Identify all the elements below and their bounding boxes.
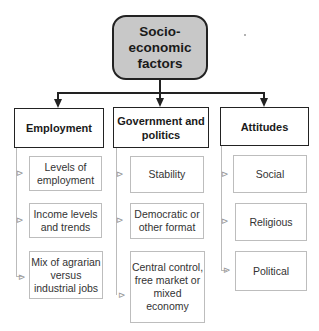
connector-arrow-icon: ⊳ (223, 265, 231, 275)
item-central-control-free-market-or-mixed-economy: Central control, free market or mixed ec… (130, 251, 205, 323)
root-label-line-2: economic (128, 40, 191, 56)
item-social: Social (233, 155, 307, 193)
attitudes-spine (221, 146, 222, 271)
horizontal-connector (57, 92, 264, 94)
item-stability: Stability (130, 156, 204, 193)
arrow-down-icon (156, 98, 164, 107)
item-religious: Religious (235, 203, 307, 241)
item-political: Political (235, 251, 307, 291)
item-levels-of-employment: Levels of employment (29, 156, 102, 191)
root-label-line-1: Socio- (128, 24, 191, 40)
connector-arrow-icon: ⊳ (16, 168, 24, 178)
connector-arrow-icon: ⊳ (116, 215, 124, 225)
item-income-levels-and-trends: Income levels and trends (29, 203, 102, 238)
root-label-line-3: factors (128, 56, 191, 72)
connector-arrow-icon: ⊳ (221, 216, 229, 226)
category-label: Employment (26, 121, 92, 135)
connector-arrow-icon: ⊳ (221, 169, 229, 179)
category-label: Government and politics (114, 114, 208, 142)
connector-arrow-icon: ⊳ (16, 215, 24, 225)
root-node-socio-economic-factors: Socio- economic factors (112, 15, 208, 80)
category-employment: Employment (14, 108, 104, 148)
item-democratic-or-other-format: Democratic or other format (130, 203, 204, 239)
arrow-down-icon (260, 98, 268, 107)
item-mix-of-agrarian-versus-industrial-jobs: Mix of agrarian versus industrial jobs (29, 251, 103, 299)
category-government-and-politics: Government and politics (113, 107, 209, 148)
stray-dot (244, 34, 246, 36)
connector-arrow-icon: ⊳ (118, 290, 126, 300)
connector-arrow-icon: ⊳ (18, 272, 26, 282)
category-attitudes: Attitudes (220, 107, 309, 146)
connector-arrow-icon: ⊳ (116, 169, 124, 179)
arrow-down-icon (54, 99, 62, 108)
category-label: Attitudes (241, 120, 289, 134)
